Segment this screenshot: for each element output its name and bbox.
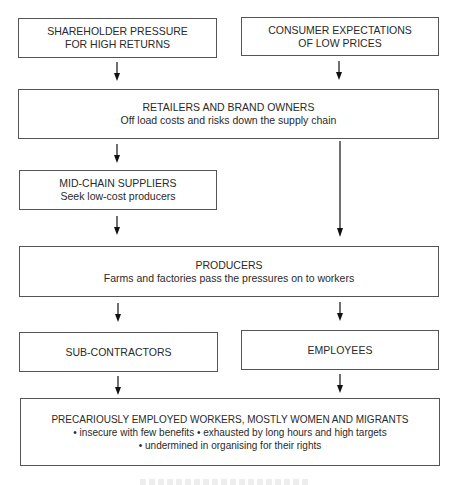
workers-title: PRECARIOUSLY EMPLOYED WORKERS, MOSTLY WO… — [51, 413, 408, 426]
arrow-down-icon — [113, 376, 123, 395]
arrow-down-icon — [335, 302, 345, 321]
workers-bullets-line2: • undermined in organising for their rig… — [139, 439, 322, 452]
truncated-caption — [0, 475, 457, 485]
shareholder-line2: FOR HIGH RETURNS — [65, 38, 170, 51]
shareholder-line1: SHAREHOLDER PRESSURE — [47, 25, 188, 38]
subcontractors-title: SUB-CONTRACTORS — [66, 346, 172, 359]
long-arrow-down-icon — [335, 141, 345, 237]
retailers-subtitle: Off load costs and risks down the supply… — [121, 114, 337, 127]
midchain-subtitle: Seek low-cost producers — [61, 190, 176, 203]
workers-bullets-line1: • insecure with few benefits • exhausted… — [73, 426, 386, 439]
producers-box: PRODUCERS Farms and factories pass the p… — [19, 246, 439, 297]
sub-contractors-box: SUB-CONTRACTORS — [19, 332, 218, 372]
arrow-down-icon — [112, 62, 122, 81]
producers-subtitle: Farms and factories pass the pressures o… — [104, 272, 354, 285]
consumer-expectations-box: CONSUMER EXPECTATIONS OF LOW PRICES — [241, 17, 439, 56]
caption-fragment — [140, 479, 310, 485]
consumer-line1: CONSUMER EXPECTATIONS — [268, 24, 412, 37]
precarious-workers-box: PRECARIOUSLY EMPLOYED WORKERS, MOSTLY WO… — [20, 398, 440, 466]
arrow-down-icon — [335, 374, 345, 393]
retailers-brand-owners-box: RETAILERS AND BRAND OWNERS Off load cost… — [18, 89, 439, 139]
employees-box: EMPLOYEES — [241, 330, 439, 370]
arrow-down-icon — [113, 303, 123, 322]
mid-chain-suppliers-box: MID-CHAIN SUPPLIERS Seek low-cost produc… — [19, 170, 217, 210]
producers-title: PRODUCERS — [195, 259, 262, 272]
consumer-line2: OF LOW PRICES — [298, 37, 381, 50]
arrow-down-icon — [334, 61, 344, 80]
shareholder-pressure-box: SHAREHOLDER PRESSURE FOR HIGH RETURNS — [18, 18, 217, 58]
employees-title: EMPLOYEES — [308, 344, 373, 357]
retailers-title: RETAILERS AND BRAND OWNERS — [143, 101, 315, 114]
arrow-down-icon — [112, 216, 122, 235]
midchain-title: MID-CHAIN SUPPLIERS — [59, 177, 176, 190]
arrow-down-icon — [112, 144, 122, 163]
